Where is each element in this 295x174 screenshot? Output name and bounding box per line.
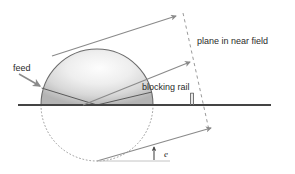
reflector-dome xyxy=(41,49,153,105)
near-field-plane-line xyxy=(183,13,209,130)
feed-label: feed xyxy=(13,63,31,73)
near-field-plane-label: plane in near field xyxy=(197,36,268,46)
feed-pointer-arrow xyxy=(19,74,40,86)
diagram-canvas: feed blocking rail plane in near field e xyxy=(0,0,295,174)
upper-ray xyxy=(52,16,176,56)
blocking-rail-label: blocking rail xyxy=(142,82,190,92)
dotted-lower-hemisphere xyxy=(41,105,153,161)
blocking-rail-post xyxy=(190,93,193,105)
elevation-angle-label: e xyxy=(164,149,168,159)
antenna-near-field-diagram: feed blocking rail plane in near field e xyxy=(0,0,295,174)
